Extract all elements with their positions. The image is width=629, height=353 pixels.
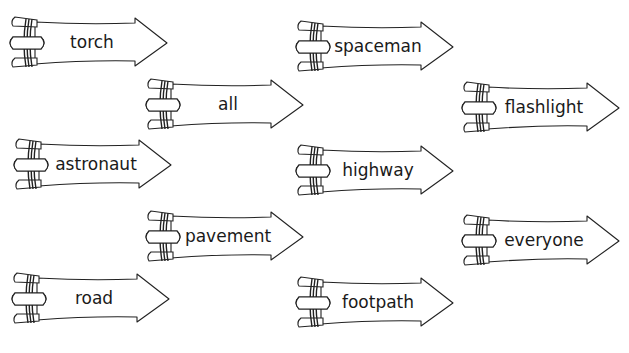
arrow-card[interactable]: everyone: [459, 212, 621, 268]
arrow-word: spaceman: [329, 18, 427, 74]
arrow-word: everyone: [495, 212, 593, 268]
arrow-word: torch: [43, 14, 141, 70]
arrow-word: astronaut: [47, 136, 145, 192]
arrow-card[interactable]: road: [9, 270, 171, 326]
arrow-card[interactable]: flashlight: [459, 79, 621, 135]
arrow-card[interactable]: pavement: [143, 208, 305, 264]
arrow-word: all: [179, 76, 277, 132]
arrow-word: pavement: [179, 208, 277, 264]
arrow-card[interactable]: astronaut: [11, 136, 173, 192]
arrow-card[interactable]: footpath: [293, 274, 455, 330]
arrow-card[interactable]: all: [143, 76, 305, 132]
arrow-word: footpath: [329, 274, 427, 330]
arrow-word: road: [45, 270, 143, 326]
arrow-word: flashlight: [495, 79, 593, 135]
arrow-card[interactable]: highway: [293, 142, 455, 198]
arrow-card[interactable]: torch: [7, 14, 169, 70]
arrow-card[interactable]: spaceman: [293, 18, 455, 74]
arrow-word: highway: [329, 142, 427, 198]
